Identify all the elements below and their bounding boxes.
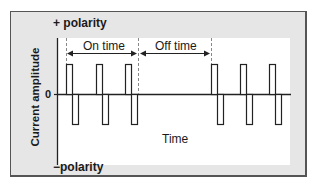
positive-polarity-label: + polarity [53,16,107,30]
on-time-arrow-right-head [131,51,137,57]
pulse-group-1 [67,65,138,125]
pulse-negative [73,95,79,125]
x-axis-label: Time [162,132,188,146]
pulse-positive [270,65,276,95]
on-time-arrow-left-head [67,51,73,57]
off-time-label: Off time [153,39,199,53]
negative-polarity-label: −polarity [53,160,103,174]
pulse-positive [97,65,103,95]
pulse-positive [241,65,247,95]
on-time-label: On time [81,39,127,53]
pulse-negative [132,95,138,125]
pulse-positive [212,65,218,95]
pulse-negative [103,95,109,125]
pulse-positive [67,65,73,95]
y-axis-label: Current amplitude [29,47,41,146]
pulse-positive [126,65,132,95]
off-time-arrow-right-head [204,51,210,57]
pulse-group-2 [212,65,282,125]
zero-label: 0 [45,88,51,100]
pulse-negative [276,95,282,125]
pulse-negative [218,95,224,125]
pulse-negative [247,95,253,125]
off-time-arrow-left-head [140,51,146,57]
